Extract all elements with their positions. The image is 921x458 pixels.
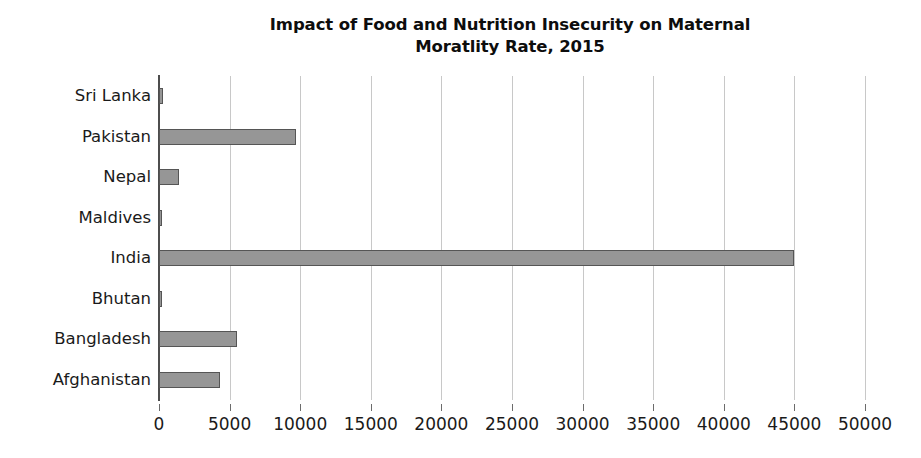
- bar-row: [159, 319, 865, 360]
- bar-row: [159, 157, 865, 198]
- bar-row: [159, 238, 865, 279]
- x-tick-label-5000: 5000: [208, 414, 251, 434]
- x-tick-40000: [724, 404, 725, 411]
- x-tick-45000: [794, 404, 795, 411]
- x-tick-label-25000: 25000: [485, 414, 539, 434]
- x-tick-label-15000: 15000: [344, 414, 398, 434]
- bar-nepal: [159, 169, 179, 185]
- bar-pakistan: [159, 129, 296, 145]
- x-tick-30000: [583, 404, 584, 411]
- x-tick-20000: [441, 404, 442, 411]
- bar-row: [159, 198, 865, 239]
- category-label-bhutan: Bhutan: [11, 291, 151, 308]
- bar-bangladesh: [159, 331, 237, 347]
- category-label-pakistan: Pakistan: [11, 129, 151, 146]
- category-label-nepal: Nepal: [11, 169, 151, 186]
- x-tick-label-35000: 35000: [626, 414, 680, 434]
- x-tick-label-0: 0: [154, 414, 165, 434]
- gridline-50000: [865, 76, 866, 400]
- bar-afghanistan: [159, 372, 220, 388]
- bar-bhutan: [159, 291, 162, 307]
- bar-row: [159, 360, 865, 401]
- x-tick-label-50000: 50000: [838, 414, 892, 434]
- x-tick-35000: [653, 404, 654, 411]
- category-label-maldives: Maldives: [11, 210, 151, 227]
- x-tick-label-20000: 20000: [414, 414, 468, 434]
- bar-chart: Impact of Food and Nutrition Insecurity …: [0, 0, 921, 458]
- category-label-bangladesh: Bangladesh: [11, 331, 151, 348]
- category-label-sri-lanka: Sri Lanka: [11, 88, 151, 105]
- x-tick-label-30000: 30000: [556, 414, 610, 434]
- bar-row: [159, 279, 865, 320]
- plot-area: [159, 76, 865, 400]
- category-axis-labels: Sri LankaPakistanNepalMaldivesIndiaBhuta…: [5, 76, 151, 400]
- x-axis-labels: 0500010000150002000025000300003500040000…: [0, 404, 921, 444]
- category-label-india: India: [11, 250, 151, 267]
- x-tick-label-40000: 40000: [697, 414, 751, 434]
- x-tick-0: [159, 404, 160, 411]
- x-tick-15000: [371, 404, 372, 411]
- bar-sri-lanka: [159, 88, 163, 104]
- bar-maldives: [159, 210, 162, 226]
- bar-row: [159, 76, 865, 117]
- x-tick-5000: [230, 404, 231, 411]
- bar-row: [159, 117, 865, 158]
- chart-title: Impact of Food and Nutrition Insecurity …: [160, 14, 860, 58]
- x-tick-10000: [300, 404, 301, 411]
- x-tick-label-10000: 10000: [273, 414, 327, 434]
- category-label-afghanistan: Afghanistan: [11, 372, 151, 389]
- bar-india: [159, 250, 794, 266]
- x-tick-25000: [512, 404, 513, 411]
- x-tick-label-45000: 45000: [767, 414, 821, 434]
- x-tick-50000: [865, 404, 866, 411]
